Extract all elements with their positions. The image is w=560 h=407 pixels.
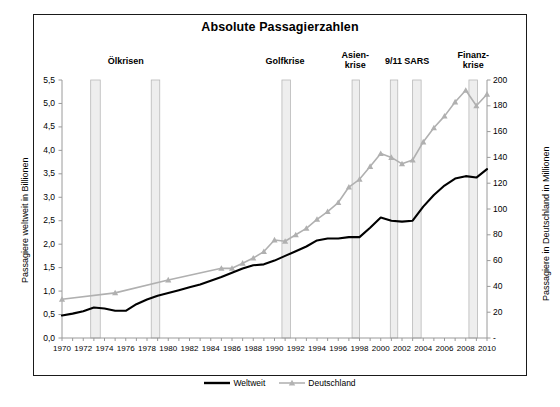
x-axis-tick-label: 2010 [474,344,500,353]
figure-container: Absolute Passagierzahlen Passagiere welt… [0,0,560,407]
legend-label: Weltweit [233,378,265,388]
right-axis-tick-label: - [493,333,519,343]
chart-legend: WeltweitDeutschland [0,378,560,388]
crisis-band [151,80,160,338]
left-axis-tick-label: 2,0 [29,239,55,249]
legend-label: Deutschland [308,378,355,388]
left-axis-tick-label: 5,5 [29,75,55,85]
crisis-annotation: Finanz- krise [446,50,500,70]
legend-line-swatch [204,378,230,388]
left-axis-tick-label: 1,5 [29,262,55,272]
crisis-annotation: Ölkrisen [99,56,153,66]
left-axis-tick-label: 2,5 [29,215,55,225]
left-axis-tick-label: 4,0 [29,145,55,155]
series-line-deutschland [62,90,487,299]
right-axis-tick-label: 180 [493,100,519,110]
right-axis-tick-label: 40 [493,281,519,291]
crisis-annotation: Golfkrise [258,56,312,66]
left-axis-tick-label: 5,0 [29,98,55,108]
right-axis-tick-label: 120 [493,178,519,188]
series-marker-deutschland [293,232,299,238]
series-marker-deutschland [250,255,256,261]
right-axis-tick-label: 60 [493,255,519,265]
left-axis-tick-label: 0,0 [29,333,55,343]
right-axis-tick-label: 160 [493,126,519,136]
right-axis-tick-label: 100 [493,204,519,214]
series-marker-deutschland [463,87,469,93]
left-axis-tick-label: 3,5 [29,168,55,178]
right-axis-tick-label: 200 [493,75,519,85]
legend-line-marker-swatch [279,378,305,388]
legend-item[interactable]: Weltweit [204,378,265,388]
crisis-band [413,80,422,338]
series-marker-deutschland [484,91,490,97]
left-axis-tick-label: 0,5 [29,309,55,319]
crisis-band [282,80,291,338]
crisis-band [352,80,359,338]
crisis-band [91,80,101,338]
legend-item[interactable]: Deutschland [279,378,355,388]
crisis-band [390,80,397,338]
left-axis-tick-label: 1,0 [29,286,55,296]
right-axis-tick-label: 20 [493,307,519,317]
series-marker-deutschland [378,150,384,156]
right-axis-tick-label: 140 [493,152,519,162]
left-axis-tick-label: 4,5 [29,121,55,131]
crisis-band [469,80,478,338]
right-axis-tick-label: 80 [493,229,519,239]
crisis-annotation: SARS [390,56,444,66]
left-axis-tick-label: 3,0 [29,192,55,202]
